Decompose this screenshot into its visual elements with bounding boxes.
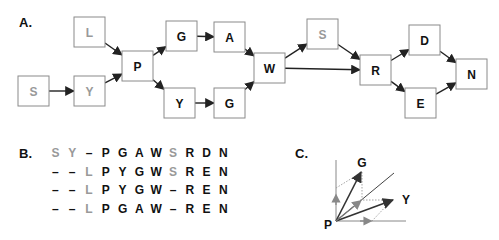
edge-w-to-s2: [285, 44, 307, 58]
alignment-residue: W: [148, 165, 165, 179]
alignment-residue: R: [181, 202, 198, 216]
alignment-residue: Y: [114, 183, 131, 197]
graph-node-d: D: [409, 25, 440, 55]
alignment-residue: N: [215, 146, 232, 160]
node-label: S: [318, 28, 326, 42]
vector-y-label: Y: [402, 193, 410, 207]
graph-node-s2: S: [307, 19, 338, 49]
diagonal-arrow: [336, 203, 358, 221]
alignment-row: ––LPYGWSREN: [47, 165, 232, 179]
node-label: L: [86, 26, 93, 40]
panel-c-label: C.: [295, 146, 308, 161]
alignment-residue: R: [181, 165, 198, 179]
node-label: S: [29, 85, 37, 99]
alignment-residue: –: [64, 183, 81, 197]
graph-node-y1: Y: [74, 76, 105, 106]
alignment-residue: N: [215, 202, 232, 216]
alignment-row: SY–PGAWSRDN: [47, 146, 232, 160]
graph-node-p: P: [122, 51, 153, 81]
alignment-residue: S: [165, 146, 182, 160]
node-label: P: [133, 60, 141, 74]
edge-a-to-w: [245, 49, 254, 56]
alignment-residue: –: [64, 202, 81, 216]
panel-b-label: B.: [19, 146, 32, 161]
alignment-residue: –: [47, 165, 64, 179]
node-label: Y: [175, 97, 183, 111]
vector-g-arrow: [336, 172, 361, 221]
alignment-residue: D: [198, 146, 215, 160]
graph-node-l: L: [74, 17, 105, 47]
sequence-graph: SLYPGAYGWSRDEN: [0, 0, 499, 135]
alignment-residue: P: [97, 183, 114, 197]
graph-node-y2: Y: [164, 88, 195, 118]
alignment-residue: G: [131, 183, 148, 197]
edge-p-to-g1: [153, 47, 166, 56]
node-label: E: [416, 97, 424, 111]
alignment-residue: W: [148, 146, 165, 160]
alignment-row: ––LPYGW–REN: [47, 183, 232, 197]
graph-node-g2: G: [214, 88, 245, 118]
alignment-row: ––LPGAW–REN: [47, 202, 232, 216]
alignment-residue: W: [148, 183, 165, 197]
alignment-residue: –: [165, 202, 182, 216]
node-label: D: [420, 34, 429, 48]
node-label: A: [225, 31, 234, 45]
node-label: N: [467, 68, 476, 82]
graph-node-a: A: [214, 22, 245, 52]
edge-r-to-e: [391, 81, 405, 91]
alignment-residue: G: [131, 165, 148, 179]
alignment-residue: E: [198, 202, 215, 216]
edge-g2-to-w: [245, 82, 254, 90]
alignment-residue: G: [114, 202, 131, 216]
alignment-residue: Y: [114, 165, 131, 179]
edge-y1-to-p: [105, 74, 122, 83]
alignment-residue: S: [47, 146, 64, 160]
alignment-residue: P: [97, 165, 114, 179]
alignment-residue: E: [198, 183, 215, 197]
alignment-residue: Y: [64, 146, 81, 160]
node-label: R: [371, 64, 380, 78]
graph-node-r: R: [360, 55, 391, 85]
vector-y-arrow: [336, 200, 393, 221]
alignment-residue: A: [131, 202, 148, 216]
edge-w-to-r: [285, 68, 360, 69]
alignment-residue: A: [131, 146, 148, 160]
graph-node-n: N: [456, 59, 487, 89]
alignment-residue: L: [81, 165, 98, 179]
edge-p-to-y2: [153, 80, 164, 90]
alignment-residue: E: [198, 165, 215, 179]
alignment-residue: N: [215, 183, 232, 197]
alignment-residue: N: [215, 165, 232, 179]
graph-node-w: W: [254, 53, 285, 83]
edge-e-to-n: [436, 83, 456, 94]
edge-l-to-p: [105, 43, 122, 55]
alignment-residue: –: [165, 183, 182, 197]
alignment-residue: –: [47, 202, 64, 216]
alignment-residue: P: [97, 202, 114, 216]
node-label: G: [177, 30, 186, 44]
edge-r-to-d: [391, 49, 409, 60]
alignment-residue: –: [81, 146, 98, 160]
graph-edges: [49, 36, 456, 103]
graph-node-e: E: [405, 88, 436, 118]
alignment-residue: R: [181, 183, 198, 197]
alignment-residue: L: [81, 183, 98, 197]
alignment-residue: R: [181, 146, 198, 160]
alignment-residue: –: [47, 183, 64, 197]
alignment-residue: G: [114, 146, 131, 160]
alignment-residue: S: [165, 165, 182, 179]
node-label: Y: [85, 85, 93, 99]
edge-s2-to-r: [338, 45, 360, 60]
edge-d-to-n: [440, 51, 456, 63]
alignment-residue: –: [64, 165, 81, 179]
vector-g-label: G: [357, 156, 366, 170]
alignment-residue: P: [97, 146, 114, 160]
vector-origin-label: P: [324, 218, 332, 232]
diagonal-axis: [336, 173, 394, 221]
alignment-residue: L: [81, 202, 98, 216]
graph-node-g1: G: [166, 21, 197, 51]
alignment-residue: W: [148, 202, 165, 216]
graph-node-s1: S: [18, 76, 49, 106]
node-label: G: [225, 97, 234, 111]
graph-nodes: SLYPGAYGWSRDEN: [18, 17, 487, 118]
